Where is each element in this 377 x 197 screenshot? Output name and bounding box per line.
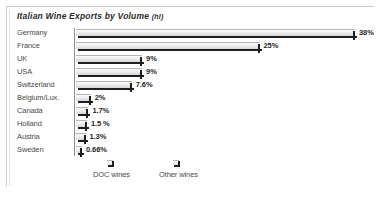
legend-label: DOC wines — [93, 170, 130, 179]
category-label-canada: Canada — [17, 106, 71, 115]
bar-right-edge — [130, 83, 132, 92]
bar-value-label: 9% — [146, 67, 157, 76]
chart-row: Holland1.5 % — [17, 118, 357, 131]
bar-right-edge — [85, 122, 87, 131]
bar-bottom-edge — [78, 49, 262, 51]
chart-row: UK9% — [17, 53, 357, 66]
category-label-austria: Austria — [17, 132, 71, 141]
bar-right-edge — [84, 135, 86, 144]
category-label-sweden: Sweden — [17, 145, 71, 154]
chart-title-unit: (hl) — [152, 13, 164, 20]
bar-bottom-edge — [78, 75, 144, 77]
bar[interactable] — [76, 29, 355, 38]
legend-label: Other wines — [159, 170, 198, 179]
legend-item[interactable]: DOC wines — [93, 160, 130, 179]
bar-value-label: 0.66% — [86, 145, 107, 154]
category-label-france: France — [17, 41, 71, 50]
chart-title: Italian Wine Exports by Volume (hl) — [17, 11, 163, 21]
bar[interactable] — [76, 81, 132, 90]
category-label-switzerland: Switzerland — [17, 80, 71, 89]
chart-row: Switzerland7.6% — [17, 79, 357, 92]
bar-right-edge — [80, 148, 82, 157]
frame-left-inner-rule — [9, 10, 10, 186]
chart-row: Sweden0.66% — [17, 144, 357, 157]
bar[interactable] — [76, 133, 86, 142]
legend-swatch-icon — [107, 160, 114, 167]
bar-value-label: 1.5 % — [91, 119, 110, 128]
bar[interactable] — [76, 55, 142, 64]
chart-row: USA9% — [17, 66, 357, 79]
bar-right-edge — [86, 109, 88, 118]
bar[interactable] — [76, 120, 87, 129]
bar-right-edge — [353, 31, 355, 40]
bar-body — [76, 29, 355, 36]
category-label-usa: USA — [17, 67, 71, 76]
frame-top-rule — [6, 6, 374, 7]
bar-right-edge — [140, 57, 142, 66]
category-label-uk: UK — [17, 54, 71, 63]
legend-swatch-icon — [173, 160, 180, 167]
legend-item[interactable]: Other wines — [159, 160, 198, 179]
chart-title-text: Italian Wine Exports by Volume — [17, 11, 149, 21]
chart-row: Belgium/Lux.2% — [17, 92, 357, 105]
bar-bottom-edge — [78, 127, 89, 129]
bar-right-edge — [140, 70, 142, 79]
bar[interactable] — [76, 94, 91, 103]
chart-row: Austria1.3% — [17, 131, 357, 144]
bar-right-edge — [258, 44, 260, 53]
frame-left-rule — [6, 6, 7, 186]
bar-value-label: 1.7% — [92, 106, 109, 115]
bar-body — [76, 42, 260, 49]
bar-right-edge — [89, 96, 91, 105]
plot-area: Germany38%France25%UK9%USA9%Switzerland7… — [17, 27, 367, 157]
chart-row: France25% — [17, 40, 357, 53]
category-label-germany: Germany — [17, 28, 71, 37]
chart-legend: DOC winesOther wines — [17, 160, 357, 190]
bar-value-label: 9% — [146, 54, 157, 63]
bar-value-label: 1.3% — [90, 132, 107, 141]
bar-bottom-edge — [78, 88, 134, 90]
bar-value-label: 7.6% — [136, 80, 153, 89]
bar-value-label: 2% — [95, 93, 106, 102]
chart-row: Canada1.7% — [17, 105, 357, 118]
bar-body — [76, 55, 142, 62]
bar-bottom-edge — [78, 62, 144, 64]
category-label-holland: Holland — [17, 119, 71, 128]
chart-figure: Italian Wine Exports by Volume (hl) Germ… — [0, 0, 377, 197]
bar-value-label: 25% — [264, 41, 279, 50]
bar-value-label: 38% — [359, 28, 374, 37]
bar-bottom-edge — [78, 114, 90, 116]
chart-row: Germany38% — [17, 27, 357, 40]
bar[interactable] — [76, 42, 260, 51]
bar[interactable] — [76, 146, 82, 155]
bar-body — [76, 81, 132, 88]
bar-body — [76, 68, 142, 75]
bar[interactable] — [76, 68, 142, 77]
bar[interactable] — [76, 107, 88, 116]
bar-bottom-edge — [78, 36, 357, 38]
category-label-belgium-lux: Belgium/Lux. — [17, 93, 71, 102]
